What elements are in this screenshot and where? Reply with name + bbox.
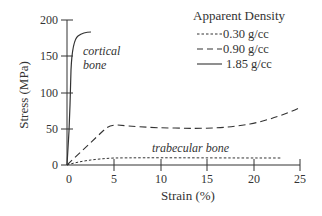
series-0-90-line	[67, 108, 299, 165]
y-axis-title: Stress (MPa)	[16, 61, 31, 129]
y-tick-label: 100	[40, 86, 58, 100]
x-tick-label: 20	[248, 172, 260, 186]
legend-entry: 0.90 g/cc	[223, 42, 269, 56]
x-tick-label: 25	[294, 172, 306, 186]
series-0-30-line	[67, 158, 281, 165]
y-tick-label: 200	[40, 13, 58, 27]
y-axis	[61, 20, 73, 165]
legend-entry: 0.30 g/cc	[223, 27, 269, 41]
y-tick-label: 0	[52, 158, 58, 172]
annotation-cortical: cortical	[83, 44, 121, 58]
x-axis-title: Strain (%)	[161, 188, 215, 203]
x-axis	[61, 159, 300, 171]
x-tick-label: 10	[155, 172, 167, 186]
legend-title: Apparent Density	[193, 8, 286, 23]
x-tick-label: 5	[111, 172, 117, 186]
annotation-bone: bone	[83, 58, 107, 72]
x-tick-label: 0	[66, 172, 72, 186]
y-tick-label: 50	[46, 122, 58, 136]
stress-strain-chart: 200 150 100 50 0 0 5 10 15 20 25 Strain …	[0, 0, 322, 216]
legend-entry: 1.85 g/cc	[226, 57, 272, 71]
y-tick-label: 150	[40, 49, 58, 63]
x-tick-label: 15	[201, 172, 213, 186]
legend: Apparent Density 0.30 g/cc 0.90 g/cc 1.8…	[193, 8, 286, 71]
annotation-trabecular: trabecular bone	[152, 141, 230, 155]
